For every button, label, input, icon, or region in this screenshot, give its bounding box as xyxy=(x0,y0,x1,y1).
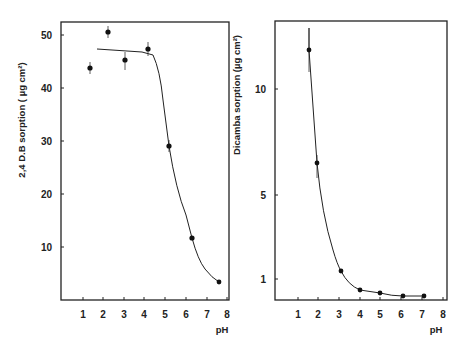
left-plot-frame xyxy=(61,22,229,300)
right-data-points xyxy=(307,48,427,299)
y-tick-label: 50 xyxy=(41,30,53,41)
y-tick-label: 30 xyxy=(41,136,53,147)
data-point xyxy=(122,57,127,62)
right-y-axis-title: Dicamba sorption (µg cm²) xyxy=(231,35,242,155)
data-point xyxy=(358,288,363,293)
x-tick-label: 7 xyxy=(419,309,425,320)
left-error-bars xyxy=(90,26,169,152)
data-point xyxy=(378,291,383,296)
x-tick-label: 4 xyxy=(357,309,363,320)
x-tick-label: 7 xyxy=(204,309,210,320)
y-tick-label: 5 xyxy=(260,190,266,201)
x-tick-label: 2 xyxy=(315,309,321,320)
x-tick-label: 4 xyxy=(141,309,147,320)
y-tick-label: 10 xyxy=(41,242,53,253)
y-tick-label: 10 xyxy=(255,84,267,95)
x-tick-label: 6 xyxy=(183,309,189,320)
x-tick-label: 1 xyxy=(295,309,301,320)
data-point xyxy=(105,29,110,34)
right-chart: 1051 12345678 Dicamba sorption (µg cm²) … xyxy=(231,21,447,335)
left-data-points xyxy=(87,29,221,284)
y-tick-label: 1 xyxy=(260,274,266,285)
x-tick-label: 3 xyxy=(336,309,342,320)
right-plot-frame xyxy=(275,21,447,300)
data-point xyxy=(87,65,92,70)
x-tick-label: 8 xyxy=(224,309,230,320)
x-tick-label: 1 xyxy=(80,309,86,320)
left-fit-curve xyxy=(97,49,219,282)
right-x-axis-title: pH xyxy=(430,324,443,335)
x-tick-label: 3 xyxy=(121,309,127,320)
data-point xyxy=(189,235,194,240)
figure-canvas: 5040302010 12345678 2,4 D.B sorption ( µ… xyxy=(0,0,463,355)
left-y-axis-title: 2,4 D.B sorption ( µg cm²) xyxy=(16,62,27,177)
data-point xyxy=(307,48,312,53)
x-tick-label: 5 xyxy=(377,309,383,320)
right-fit-curve xyxy=(309,28,424,296)
data-point xyxy=(166,143,171,148)
x-tick-label: 6 xyxy=(398,309,404,320)
data-point xyxy=(315,161,320,166)
data-point xyxy=(401,294,406,299)
data-point xyxy=(422,294,427,299)
left-x-axis-title: pH xyxy=(216,324,229,335)
y-tick-label: 40 xyxy=(41,83,53,94)
data-point xyxy=(217,280,222,285)
left-chart: 5040302010 12345678 2,4 D.B sorption ( µ… xyxy=(16,22,230,335)
x-tick-label: 5 xyxy=(162,309,168,320)
x-tick-label: 8 xyxy=(440,309,446,320)
data-point xyxy=(339,269,344,274)
y-tick-label: 20 xyxy=(41,189,53,200)
x-tick-label: 2 xyxy=(100,309,106,320)
data-point xyxy=(145,46,150,51)
